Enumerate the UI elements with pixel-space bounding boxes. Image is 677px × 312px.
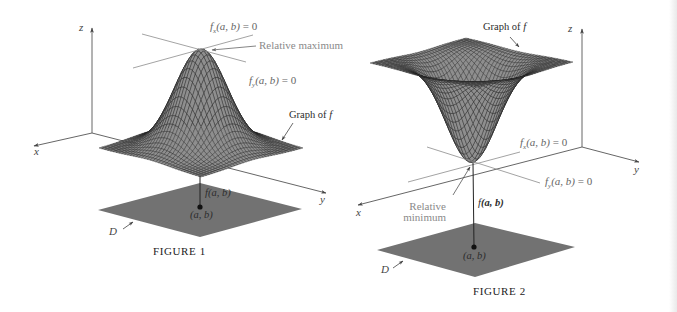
z-axis-label: z: [79, 21, 83, 34]
point-ab-label: (a, b): [463, 249, 486, 262]
domain-label: D: [109, 225, 117, 238]
graph-label-var: f: [523, 21, 526, 32]
subscript: x: [523, 143, 526, 151]
subscript: y: [252, 81, 255, 89]
graph-of-f-arrow: [282, 123, 293, 140]
relative-maximum-label: Relative maximum: [259, 39, 343, 52]
arguments: (a, b): [208, 187, 231, 198]
graph-of-f-label: Graph of f: [483, 20, 526, 33]
y-axis-label: y: [634, 163, 639, 176]
arguments: (a, b): [481, 197, 504, 208]
equation: = 0: [575, 175, 592, 187]
function-value-label: f(a, b): [478, 196, 504, 209]
figure-2-graphic: [358, 29, 639, 277]
domain-label: D: [381, 263, 389, 276]
arguments: (a, b): [526, 136, 550, 148]
x-axis: [34, 133, 92, 146]
function-value-label: f(a, b): [205, 186, 231, 199]
y-axis-label: y: [320, 193, 325, 206]
figure-canvas: z x y fx(a, b) = 0 Relative maximum fy(a…: [0, 0, 677, 312]
x-axis-label: x: [34, 145, 39, 158]
graph-of-f-label: Graph of f: [289, 108, 332, 121]
x-axis-label: x: [356, 206, 361, 219]
equation: = 0: [240, 20, 257, 32]
domain-arrow: [123, 222, 133, 229]
figure-1-graphic: [34, 28, 326, 237]
figure-1-caption: FIGURE 1: [153, 245, 206, 258]
y-axis: [582, 147, 639, 162]
graph-label-var: f: [329, 109, 332, 120]
graph-surface-peak: [99, 49, 303, 177]
arguments: (a, b): [551, 175, 575, 187]
figure-2-caption: FIGURE 2: [473, 285, 526, 298]
tangent-line-fy: [427, 147, 540, 183]
relative-maximum-arrow: [212, 46, 256, 50]
partial-x-zero-label: fx(a, b) = 0: [520, 136, 567, 151]
partial-y-zero-label: fy(a, b) = 0: [545, 175, 592, 190]
arguments: (a, b): [255, 74, 279, 86]
domain-arrow: [393, 261, 403, 268]
equation: = 0: [550, 136, 567, 148]
graph-of-f-arrow: [510, 37, 519, 47]
relative-minimum-line2: minimum: [394, 212, 446, 223]
graph-label-prefix: Graph of: [289, 109, 329, 120]
subscript: y: [548, 182, 551, 190]
page-edge-shadow: [669, 0, 677, 312]
partial-x-zero-label: fx(a, b) = 0: [210, 20, 257, 35]
graph-label-prefix: Graph of: [483, 21, 523, 32]
partial-y-zero-label: fy(a, b) = 0: [249, 74, 296, 89]
z-axis-label: z: [568, 22, 572, 35]
relative-minimum-label: Relative minimum: [394, 201, 446, 223]
subscript: x: [213, 27, 216, 35]
arguments: (a, b): [216, 20, 240, 32]
equation: = 0: [279, 74, 296, 86]
point-ab-label: (a, b): [190, 208, 213, 221]
relative-minimum-arrow: [453, 167, 470, 195]
